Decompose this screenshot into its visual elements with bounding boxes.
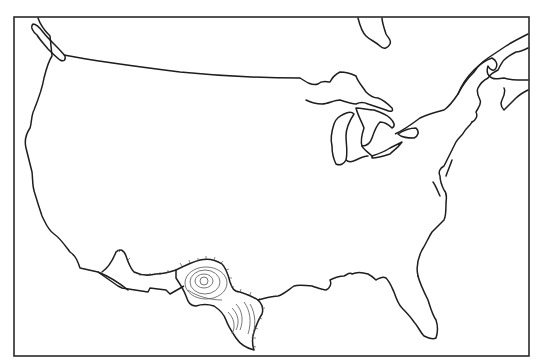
map-frame xyxy=(14,17,529,356)
map-container: Outline map of the contiguous United Sta… xyxy=(0,0,537,364)
us-outline-map xyxy=(0,0,537,364)
